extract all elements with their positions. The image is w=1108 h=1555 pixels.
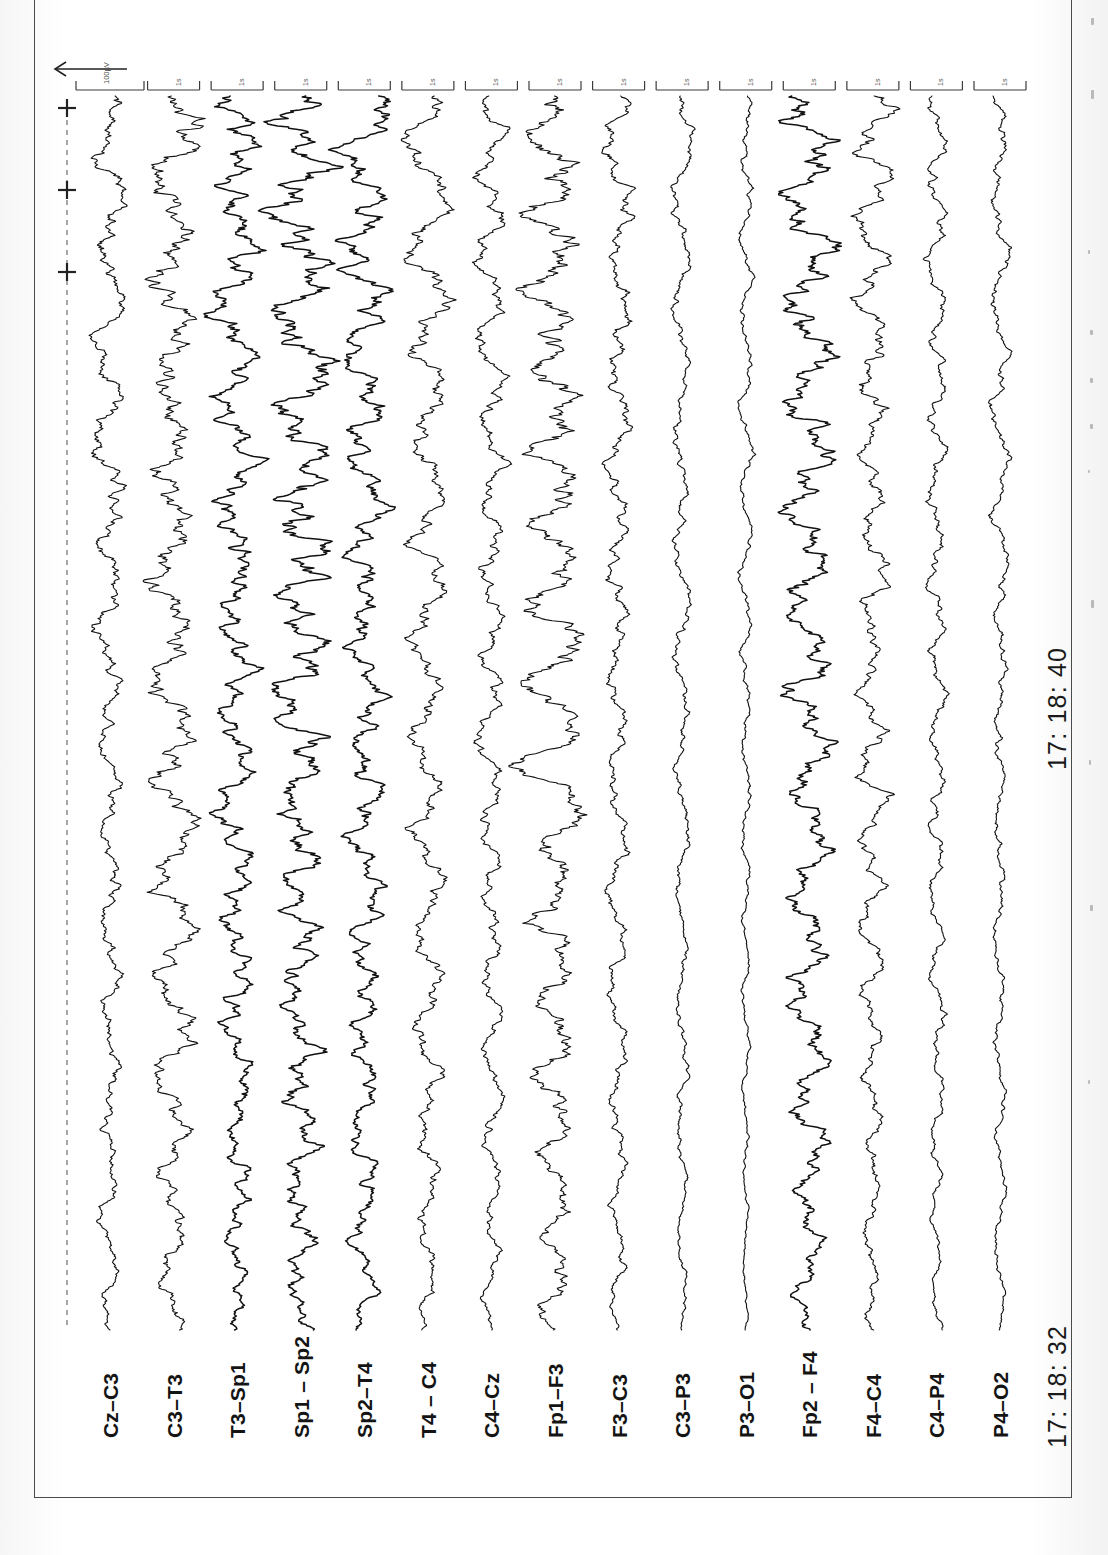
channel-label: C4–Cz <box>480 1373 504 1438</box>
channel-label: F4–C4 <box>862 1374 886 1438</box>
eeg-page: Cz–C3C3–T3T3–Sp1Sp1 – Sp2Sp2–T4T4 – C4C4… <box>0 0 1108 1555</box>
eeg-trace <box>850 96 900 1330</box>
timestamp-start: 17: 18: 32 <box>1043 1325 1072 1448</box>
time-scale-label: 1s <box>175 79 182 86</box>
eeg-trace <box>472 96 511 1330</box>
scan-artifact <box>1088 470 1090 473</box>
time-scale-label: 1s <box>620 79 627 86</box>
eeg-trace <box>259 96 344 1330</box>
time-scale-label: 1s <box>556 79 563 86</box>
channel-label: C3–T3 <box>163 1374 187 1438</box>
time-scale-label: 1s <box>302 79 309 86</box>
channel-label: T3–Sp1 <box>226 1362 250 1438</box>
scan-artifact <box>1090 330 1093 335</box>
eeg-trace <box>923 96 949 1330</box>
time-scale-label: 1s <box>874 79 881 86</box>
scan-artifact <box>1088 1080 1090 1084</box>
time-scale-label: 1s <box>810 79 817 86</box>
eeg-trace <box>671 96 695 1330</box>
calibration-bracket-time <box>275 81 327 90</box>
scan-artifact <box>1089 760 1091 765</box>
calibration-bracket-time <box>148 81 200 90</box>
eeg-trace <box>329 96 396 1330</box>
time-scale-label: 1s <box>238 79 245 86</box>
calibration-bracket-time <box>720 81 772 90</box>
channel-label: C4–P4 <box>925 1373 949 1438</box>
channel-label: Fp1–F3 <box>544 1363 568 1438</box>
amplitude-scale-label: 100µV <box>102 62 111 84</box>
channel-label: Sp2–T4 <box>353 1362 377 1438</box>
channel-label: P3–O1 <box>735 1372 759 1438</box>
time-scale-label: 1s <box>937 79 944 86</box>
scan-artifact <box>1091 18 1094 25</box>
time-scale-label: 1s <box>683 79 690 86</box>
channel-label: F3–C3 <box>608 1374 632 1438</box>
channel-label: T4 – C4 <box>417 1362 441 1438</box>
eeg-trace <box>602 96 636 1330</box>
eeg-trace <box>988 96 1012 1330</box>
time-scale-label: 1s <box>429 79 436 86</box>
channel-label: C3–P3 <box>671 1373 695 1438</box>
eeg-trace <box>509 96 587 1330</box>
calibration-bracket-time <box>529 81 581 90</box>
channel-label: Cz–C3 <box>99 1373 123 1438</box>
calibration-bracket-time <box>847 81 899 90</box>
scan-artifact <box>1090 378 1093 383</box>
eeg-trace <box>89 96 127 1330</box>
scan-artifact <box>1091 90 1094 99</box>
eeg-trace <box>738 96 756 1330</box>
scan-artifact <box>1091 600 1094 608</box>
eeg-trace <box>204 96 269 1330</box>
scan-artifact <box>1090 424 1093 429</box>
channel-label: Sp1 – Sp2 <box>290 1336 314 1438</box>
scan-artifact <box>1088 250 1090 254</box>
time-scale-label: 1s <box>1001 79 1008 86</box>
time-axis <box>58 99 76 1330</box>
channel-label: Fp2 – F4 <box>798 1351 822 1438</box>
eeg-trace <box>143 96 205 1330</box>
calibration-bracket-time <box>402 81 454 90</box>
time-scale-label: 1s <box>492 79 499 86</box>
time-scale-label: 1s <box>747 79 754 86</box>
eeg-trace <box>401 96 456 1330</box>
eeg-trace <box>778 96 841 1330</box>
eeg-plot-area <box>0 0 1108 1555</box>
channel-label: P4–O2 <box>989 1372 1013 1438</box>
timestamp-end: 17: 18: 40 <box>1043 647 1072 770</box>
calibration-bracket-time <box>974 81 1026 90</box>
calibration-bracket-time <box>593 81 645 90</box>
left-arrow-icon <box>55 62 127 76</box>
time-scale-label: 1s <box>365 79 372 86</box>
scan-artifact <box>1090 905 1093 911</box>
